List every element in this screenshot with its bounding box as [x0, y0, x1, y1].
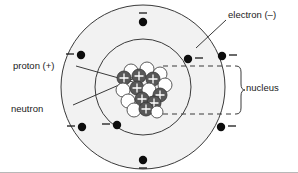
- label-electron: electron (–): [228, 10, 276, 20]
- electron-outer-right[interactable]: [218, 52, 237, 60]
- label-proton: proton (+): [13, 61, 54, 71]
- electron-outer-lower-right[interactable]: [217, 123, 236, 131]
- label-nucleus: nucleus: [246, 83, 279, 93]
- nucleus-brace: [236, 66, 245, 114]
- label-neutron: neutron: [11, 104, 43, 114]
- neutron-particle: [151, 106, 163, 118]
- atom-diagram: electron (–) proton (+) neutron nucleus: [0, 0, 298, 173]
